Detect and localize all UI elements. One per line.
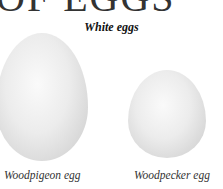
- woodpigeon-egg-image: [0, 33, 88, 161]
- woodpecker-egg-caption: Woodpecker egg: [134, 169, 210, 181]
- woodpigeon-egg-caption: Woodpigeon egg: [4, 169, 81, 181]
- section-title: White eggs: [0, 20, 223, 35]
- page-heading: OF EGGS: [0, 0, 176, 21]
- woodpecker-egg-image: [128, 70, 206, 158]
